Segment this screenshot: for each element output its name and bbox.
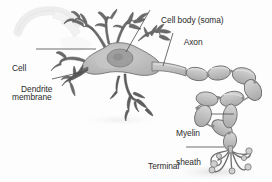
label-axon: Axon	[175, 28, 203, 57]
myelin-segment	[185, 66, 209, 83]
label-cell-body-text: Cell body (soma)	[161, 15, 224, 25]
label-dendrite-text: Dendrite	[21, 84, 52, 94]
ghost-axon-upstream	[18, 11, 80, 37]
ground-shadow-soma	[78, 113, 162, 127]
label-dendrite: Dendrite	[12, 75, 52, 104]
label-cell-membrane-line1: Cell	[12, 64, 52, 74]
label-myelin-line2: sheath	[176, 158, 201, 168]
label-terminal-line1: Terminal	[148, 162, 179, 172]
myelin-segment	[195, 91, 219, 108]
label-myelin-sheath: Myelin sheath	[176, 110, 201, 182]
nucleolus	[113, 53, 123, 60]
myelin-segment	[207, 64, 232, 81]
label-axon-text: Axon	[184, 37, 203, 47]
axon-terminal-stem	[228, 146, 233, 153]
neuron-diagram-figure: Cell body (soma) Axon Cell membrane Dend…	[0, 0, 272, 182]
label-myelin-line1: Myelin	[176, 129, 201, 139]
label-terminal-buttons: Terminal buttons	[148, 143, 179, 182]
